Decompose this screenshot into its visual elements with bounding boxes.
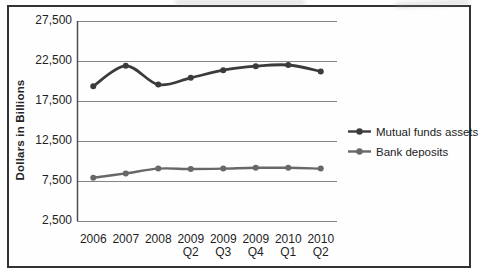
data-point — [188, 166, 194, 172]
line-marker-icon — [347, 147, 372, 156]
line-marker-icon — [347, 127, 372, 136]
legend-label: Bank deposits — [376, 146, 448, 158]
data-point — [253, 165, 259, 171]
data-point — [220, 166, 226, 172]
data-point — [220, 67, 226, 73]
y-tick-label: 27,500 — [0, 12, 72, 28]
legend-label: Mutual funds assets — [376, 126, 478, 138]
data-point — [285, 62, 291, 68]
x-tick-label: 2008 — [142, 233, 175, 246]
y-tick-label: 17,500 — [0, 92, 72, 108]
x-tick-label: 2010Q1 — [272, 233, 305, 259]
data-point — [90, 83, 96, 89]
data-point — [318, 68, 324, 74]
data-point — [90, 175, 96, 181]
x-tick-label: 2010Q2 — [304, 233, 337, 259]
data-point — [253, 63, 259, 69]
legend-item-bank-deposits: Bank deposits — [347, 144, 478, 159]
x-tick-label: 2009Q2 — [174, 233, 207, 259]
x-tick-label: 2007 — [109, 233, 142, 246]
x-tick-label: 2006 — [77, 233, 110, 246]
x-axis-tick-labels: 2006200720082009Q22009Q32009Q42010Q12010… — [77, 233, 337, 263]
x-tick-label: 2009Q4 — [239, 233, 272, 259]
data-point — [123, 170, 129, 176]
x-tick-label: 2009Q3 — [207, 233, 240, 259]
scan-artifact — [175, 0, 305, 5]
y-tick-label: 22,500 — [0, 52, 72, 68]
y-tick-label: 2,500 — [0, 212, 72, 228]
data-point — [123, 63, 129, 69]
legend-item-mutual-funds: Mutual funds assets — [347, 124, 478, 139]
y-tick-label: 12,500 — [0, 132, 72, 148]
data-point — [155, 166, 161, 172]
legend: Mutual funds assets Bank deposits — [347, 124, 478, 164]
data-point — [285, 165, 291, 171]
chart-figure: Dollars in Billions 27,50022,50017,50012… — [0, 0, 478, 278]
plot-svg — [77, 21, 337, 221]
data-point — [155, 82, 161, 88]
y-axis-tick-labels: 27,50022,50017,50012,5007,5002,500 — [0, 0, 72, 278]
y-tick-label: 7,500 — [0, 172, 72, 188]
data-point — [188, 75, 194, 81]
data-point — [318, 166, 324, 172]
